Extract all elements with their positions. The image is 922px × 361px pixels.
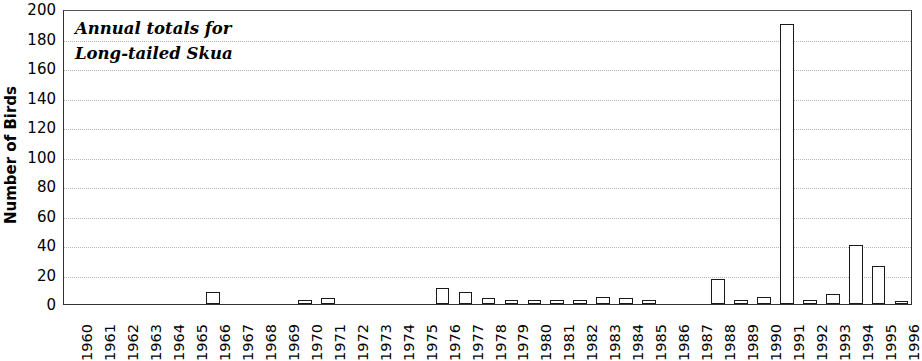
x-axis-tick-label: 1973: [379, 309, 394, 361]
y-axis-tick-label: 40: [37, 239, 56, 254]
y-axis-tick-labels: 020406080100120140160180200: [20, 0, 60, 312]
x-axis-tick-label: 1984: [631, 309, 646, 361]
bar: [757, 297, 771, 304]
x-axis-tick-label: 1978: [494, 309, 509, 361]
x-axis-tick-label: 1986: [677, 309, 692, 361]
x-axis-tick-label: 1962: [126, 309, 141, 361]
bar: [826, 294, 840, 304]
y-axis-tick-label: 160: [27, 62, 56, 77]
bar: [528, 300, 542, 304]
bar: [550, 300, 564, 304]
y-axis-tick-label: 0: [46, 298, 56, 313]
x-axis-tick-label: 1990: [769, 309, 784, 361]
y-axis-tick-label: 140: [27, 91, 56, 106]
x-axis-tick-label: 1969: [287, 309, 302, 361]
x-axis-tick-label: 1974: [402, 309, 417, 361]
bar: [573, 300, 587, 304]
plot-area: Annual totals for Long-tailed Skua: [63, 10, 912, 305]
y-axis-title-label: Number of Birds: [2, 86, 20, 224]
bar: [642, 300, 656, 304]
y-axis-tick-label: 60: [37, 209, 56, 224]
bar: [482, 298, 496, 304]
bar: [872, 266, 886, 304]
x-axis-tick-label: 1965: [195, 309, 210, 361]
bar: [619, 298, 633, 304]
y-axis-tick-label: 80: [37, 180, 56, 195]
x-axis-tick-label: 1966: [218, 309, 233, 361]
bar: [298, 300, 312, 304]
bar: [436, 288, 450, 304]
x-axis-tick-label: 1982: [585, 309, 600, 361]
x-axis-tick-label: 1996: [907, 309, 922, 361]
x-axis-tick-label: 1987: [700, 309, 715, 361]
x-axis-tick-label: 1972: [356, 309, 371, 361]
bars: [64, 11, 911, 304]
x-axis-tick-label: 1971: [333, 309, 348, 361]
bar: [206, 292, 220, 304]
x-axis-tick-label: 1970: [310, 309, 325, 361]
y-axis-tick-label: 120: [27, 121, 56, 136]
x-axis-tick-label: 1980: [539, 309, 554, 361]
x-axis-tick-label: 1960: [80, 309, 95, 361]
bar: [895, 301, 909, 304]
x-axis-tick-label: 1995: [884, 309, 899, 361]
x-axis-tick-label: 1977: [471, 309, 486, 361]
x-axis-tick-label: 1983: [608, 309, 623, 361]
x-axis-tick-label: 1994: [861, 309, 876, 361]
x-axis-tick-label: 1989: [746, 309, 761, 361]
bar: [505, 300, 519, 304]
x-axis-tick-label: 1979: [516, 309, 531, 361]
x-axis-tick-label: 1981: [562, 309, 577, 361]
x-axis-tick-label: 1968: [264, 309, 279, 361]
x-axis-tick-label: 1963: [149, 309, 164, 361]
x-axis-tick-label: 1975: [425, 309, 440, 361]
y-axis-tick-label: 180: [27, 32, 56, 47]
x-axis-tick-label: 1967: [241, 309, 256, 361]
x-axis-tick-label: 1992: [815, 309, 830, 361]
x-axis-tick-label: 1991: [792, 309, 807, 361]
x-axis-tick-labels: 1960196119621963196419651966196719681969…: [63, 307, 912, 356]
bar: [734, 300, 748, 304]
bar: [596, 297, 610, 304]
x-axis-tick-label: 1985: [654, 309, 669, 361]
bar: [459, 292, 473, 304]
x-axis-tick-label: 1976: [448, 309, 463, 361]
bar: [780, 24, 794, 304]
bar: [711, 279, 725, 304]
y-axis-tick-label: 20: [37, 268, 56, 283]
x-axis-tick-label: 1961: [103, 309, 118, 361]
bar: [321, 298, 335, 304]
y-axis-tick-label: 200: [27, 3, 56, 18]
x-axis-tick-label: 1993: [838, 309, 853, 361]
x-axis-tick-label: 1964: [172, 309, 187, 361]
x-axis-tick-label: 1988: [723, 309, 738, 361]
y-axis-tick-label: 100: [27, 150, 56, 165]
bar: [803, 300, 817, 304]
y-axis-title: Number of Birds: [0, 0, 22, 310]
bar: [849, 245, 863, 304]
